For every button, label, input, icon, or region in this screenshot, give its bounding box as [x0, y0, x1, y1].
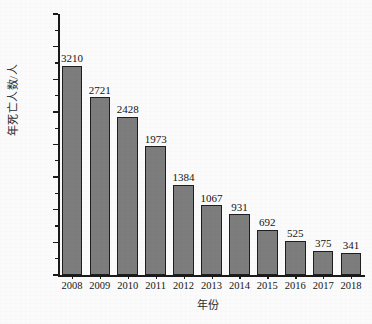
x-tick [184, 275, 185, 279]
x-tick-label: 2018 [334, 280, 368, 292]
y-tick-minor [55, 30, 58, 31]
y-tick-major [53, 242, 58, 243]
bar [62, 66, 83, 275]
x-tick [156, 275, 157, 279]
bar [201, 205, 222, 275]
x-tick [351, 275, 352, 279]
x-tick [239, 275, 240, 279]
x-tick [72, 275, 73, 279]
x-tick [323, 275, 324, 279]
x-tick [100, 275, 101, 279]
y-axis-label: 年死亡人数/人 [4, 40, 20, 160]
bar-value-label: 2428 [106, 104, 150, 115]
x-tick [212, 275, 213, 279]
bar-value-label: 931 [217, 202, 261, 213]
bar [90, 97, 111, 275]
x-tick [267, 275, 268, 279]
y-tick-minor [55, 160, 58, 161]
bar [313, 251, 334, 275]
y-tick-minor [55, 95, 58, 96]
bar-value-label: 341 [329, 240, 372, 251]
bar-value-label: 692 [245, 217, 289, 228]
bar [341, 253, 362, 275]
y-tick-major [53, 46, 58, 47]
x-tick [295, 275, 296, 279]
bar-value-label: 2721 [78, 85, 122, 96]
x-tick [128, 275, 129, 279]
y-tick-major [53, 176, 58, 177]
bar-value-label: 1384 [162, 172, 206, 183]
y-tick-major [53, 144, 58, 145]
y-tick-major [53, 111, 58, 112]
bar-chart-figure: 年死亡人数/人 年份 05001000150020002500300035004… [0, 0, 372, 324]
bar [145, 146, 166, 275]
bar-value-label: 3210 [50, 53, 94, 64]
bar-value-label: 1973 [134, 134, 178, 145]
y-tick-minor [55, 128, 58, 129]
y-tick-major [53, 209, 58, 210]
y-tick-minor [55, 193, 58, 194]
y-tick-minor [55, 258, 58, 259]
y-tick-major [53, 274, 58, 275]
y-tick-major [53, 13, 58, 14]
y-tick-major [53, 79, 58, 80]
y-tick-minor [55, 225, 58, 226]
x-axis-label: 年份 [58, 296, 358, 312]
plot-area: 2008200920102011201220132014201520162017… [58, 14, 365, 275]
